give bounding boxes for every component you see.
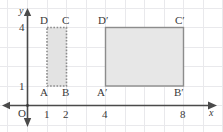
rectangle-abcd: [47, 28, 67, 87]
vertex-label-d-prime: D′: [98, 15, 108, 26]
vertex-label-c-prime: C′: [175, 15, 185, 26]
x-axis-arrow-left: [2, 102, 10, 109]
vertex-label-c: C: [62, 15, 69, 26]
vertex-label-b: B: [62, 87, 69, 98]
x-axis-label: x: [209, 108, 213, 118]
y-axis-arrow-up: [24, 8, 31, 16]
origin-point: [26, 104, 29, 107]
coordinate-plane-figure: [0, 0, 223, 132]
vertex-label-a: A: [40, 87, 48, 98]
y-tick-label-1: 1: [19, 81, 25, 92]
y-tick-label-4: 4: [19, 22, 25, 33]
y-axis-label: y: [19, 6, 23, 16]
vertex-label-a-prime: A′: [97, 87, 107, 98]
x-tick-label-8: 8: [180, 109, 186, 120]
y-axis-arrow-down: [24, 118, 31, 127]
vertex-label-d: D: [40, 15, 48, 26]
origin-label: O: [18, 108, 26, 119]
x-tick-label-1: 1: [44, 109, 50, 120]
x-tick-label-4: 4: [102, 109, 108, 120]
vertex-label-b-prime: B′: [174, 87, 184, 98]
rectangle-abcd-prime: [106, 28, 184, 87]
x-tick-label-2: 2: [63, 109, 69, 120]
